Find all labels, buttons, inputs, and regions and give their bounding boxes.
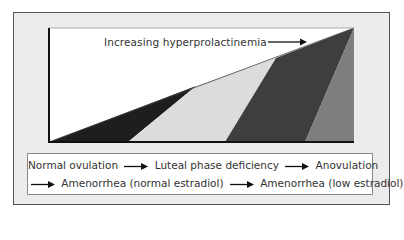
stage-label: Normal ovulation <box>28 159 118 171</box>
stage-progression-box: Normal ovulation Luteal phase deficiency… <box>27 153 373 195</box>
stage-label: Luteal phase deficiency <box>155 159 279 171</box>
stage-label: Anovulation <box>316 159 379 171</box>
arrow-right-icon <box>229 180 255 189</box>
progression-row-2: Amenorrhea (normal estradiol) Amenorrhea… <box>28 174 372 192</box>
arrow-right-icon <box>123 162 149 171</box>
stage-label: Amenorrhea (normal estradiol) <box>61 177 223 189</box>
stage-label: Amenorrhea (low estradiol) <box>260 177 403 189</box>
arrow-right-icon <box>30 180 56 189</box>
progression-row-1: Normal ovulation Luteal phase deficiency… <box>28 156 372 174</box>
axis-label: Increasing hyperprolactinemia <box>104 36 267 48</box>
arrow-right-icon <box>284 162 310 171</box>
